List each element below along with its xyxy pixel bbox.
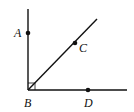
geometry-diagram: A C D B — [0, 0, 134, 112]
point-a — [26, 31, 31, 36]
label-a: A — [13, 26, 22, 40]
point-c — [73, 41, 78, 46]
label-b: B — [24, 96, 32, 110]
label-d: D — [83, 96, 93, 110]
point-d — [86, 88, 91, 93]
label-c: C — [79, 41, 88, 55]
background — [0, 0, 134, 112]
